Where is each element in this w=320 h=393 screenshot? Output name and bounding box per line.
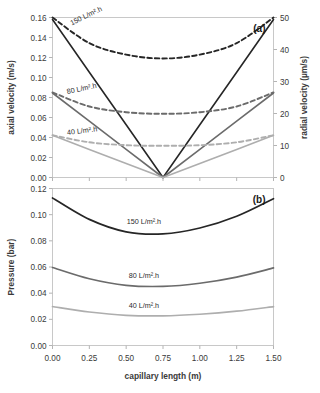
y-axis-tick-label: 0.08 [31,237,47,246]
series-radial-velocity-150 [53,18,274,59]
series-radial-velocity-40 [53,135,274,146]
series-radial-velocity-80 [53,92,274,113]
y-axis-title: Pressure (bar) [6,238,16,295]
y-axis-tick-label: 0.10 [31,211,47,220]
panel-b-frame [53,189,274,346]
series-annotation: 80 L/m².h [66,81,98,96]
y-axis-tick-label: 0.04 [31,134,47,143]
chart-panel-b: 0.000.020.040.060.080.100.120.000.250.50… [0,182,320,393]
y2-axis-tick-label: 0 [280,174,285,183]
y-axis-tick-label: 0.00 [31,174,47,183]
y2-axis-title: radial velocity (µm/s) [299,56,309,139]
x-axis-tick-label: 1.50 [266,354,282,363]
panel-b-label: (b) [253,194,266,205]
series-pressure-40 [53,307,274,316]
y-axis-tick-label: 0.02 [31,315,47,324]
y-axis-tick-label: 0.06 [31,263,47,272]
panel-a-label: (a) [253,23,265,34]
x-axis-tick-label: 0.25 [81,354,97,363]
y-axis-tick-label: 0.06 [31,114,47,123]
y2-axis-tick-label: 20 [280,110,290,119]
y-axis-tick-label: 0.08 [31,94,47,103]
series-annotation: 40 L/m².h [66,124,97,137]
x-axis-tick-label: 0.50 [118,354,134,363]
x-axis-tick-label: 0.00 [45,354,61,363]
x-axis-tick-label: 1.25 [229,354,245,363]
y2-axis-tick-label: 30 [280,78,290,87]
y2-axis-tick-label: 40 [280,46,290,55]
x-axis-title: capillary length (m) [125,371,202,381]
series-annotation: 80 L/m².h [129,271,159,280]
y-axis-tick-label: 0.12 [31,54,47,63]
y-axis-tick-label: 0.04 [31,289,47,298]
series-annotation: 150 L/m².h [69,4,104,27]
y2-axis-tick-label: 50 [280,14,290,23]
series-pressure-80 [53,268,274,287]
y-axis-tick-label: 0.14 [31,34,47,43]
x-axis-tick-label: 1.00 [192,354,208,363]
series-pressure-150 [53,198,274,234]
y-axis-tick-label: 0.16 [31,14,47,23]
chart-panel-a: 0.000.020.040.060.080.100.120.140.160102… [0,0,320,182]
figure-container: 0.000.020.040.060.080.100.120.140.160102… [0,0,320,393]
y-axis-title: axial velocity (m/s) [6,60,16,135]
series-axial-velocity-150 [53,20,274,178]
y-axis-tick-label: 0.10 [31,74,47,83]
y2-axis-tick-label: 10 [280,142,290,151]
series-annotation: 150 L/m².h [127,217,161,226]
x-axis-tick-label: 0.75 [155,354,171,363]
y-axis-tick-label: 0.12 [31,185,47,194]
y-axis-tick-label: 0.00 [31,342,47,351]
y-axis-tick-label: 0.02 [31,154,47,163]
series-annotation: 40 L/m².h [129,301,159,310]
panel-b-plot: 0.000.020.040.060.080.100.120.000.250.50… [0,182,320,393]
panel-a-plot: 0.000.020.040.060.080.100.120.140.160102… [0,0,320,182]
